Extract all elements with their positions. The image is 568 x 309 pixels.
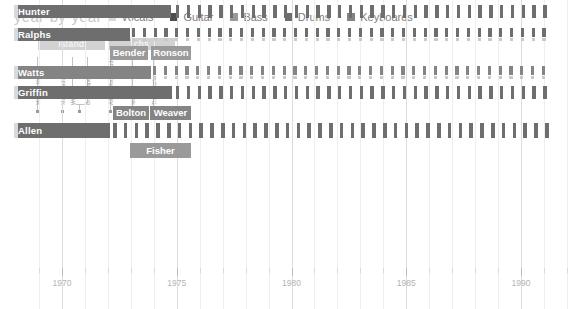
bar-dash xyxy=(424,28,427,37)
bar-dash xyxy=(250,76,253,79)
bar-dash xyxy=(293,66,296,75)
bar-dash xyxy=(218,66,221,75)
bar-dash xyxy=(488,28,491,37)
chart-row-ralphs[interactable] xyxy=(0,28,568,41)
bar-dash xyxy=(392,5,395,18)
bar-dash xyxy=(286,123,290,138)
bar-dash xyxy=(349,86,352,99)
bar-dash xyxy=(229,76,232,79)
bar-dash xyxy=(520,76,523,79)
bar-dash xyxy=(153,76,156,79)
bar-dash xyxy=(305,28,308,37)
bar-dash xyxy=(542,76,545,79)
bar-dash xyxy=(329,123,333,138)
bar-dash xyxy=(316,28,319,37)
bar-dash xyxy=(434,38,437,41)
bar-dash xyxy=(403,86,406,99)
bar-dash xyxy=(402,38,405,41)
bar-dash xyxy=(185,76,188,79)
bar-dash xyxy=(175,28,178,37)
bar-dash xyxy=(218,76,221,79)
bar-dash xyxy=(380,76,383,79)
bar-dash xyxy=(402,28,405,37)
axis-tick xyxy=(108,268,109,273)
row-label: Bender xyxy=(110,47,148,58)
bar-dash xyxy=(230,5,233,18)
bar-dash xyxy=(499,76,502,79)
bar-dash xyxy=(468,86,471,99)
bar-dash xyxy=(178,123,182,138)
row-label: Weaver xyxy=(150,107,191,118)
bar-dash xyxy=(338,86,341,99)
bar-dash xyxy=(252,5,255,18)
bar-dash xyxy=(545,123,549,138)
bar-dash xyxy=(543,5,546,18)
bar-dash xyxy=(284,5,287,18)
bar-dash xyxy=(240,38,243,41)
bar-dash xyxy=(143,38,146,41)
chart-row-allen[interactable] xyxy=(0,123,568,138)
chart-row-fisher[interactable] xyxy=(0,143,568,158)
bar-dash xyxy=(359,28,362,37)
bar-dash xyxy=(221,123,225,138)
chart-row-ronson[interactable] xyxy=(0,46,568,60)
bar-dash xyxy=(532,5,535,18)
bar-dash xyxy=(348,28,351,37)
bar-dash xyxy=(338,5,341,18)
bar-dash xyxy=(208,28,211,37)
bar-dash xyxy=(272,66,275,75)
bar-dash xyxy=(294,28,297,37)
bar-dash xyxy=(284,86,287,99)
bar-dash xyxy=(415,123,419,138)
bar-dash xyxy=(229,38,232,41)
bar-dash xyxy=(176,86,179,99)
axis-tick xyxy=(269,268,270,273)
bar-dash xyxy=(394,123,398,138)
axis-tick xyxy=(177,268,178,276)
bar-dash xyxy=(340,123,344,138)
bar-dash xyxy=(531,76,534,79)
chart-row-griffin[interactable] xyxy=(0,86,568,99)
chart-row-hunter[interactable] xyxy=(0,5,568,18)
bar-dash xyxy=(543,86,546,99)
chart-row-weaver[interactable] xyxy=(0,106,568,120)
bar-dash xyxy=(478,86,481,99)
bar-dash xyxy=(488,66,491,75)
chart-row-watts[interactable] xyxy=(0,66,568,79)
bar-dash xyxy=(145,123,149,138)
bar-dash xyxy=(241,5,244,18)
bar-dash xyxy=(143,28,146,37)
bar-dash xyxy=(381,5,384,18)
bar-dash xyxy=(167,123,171,138)
bar-dash xyxy=(326,28,329,37)
bar-dash xyxy=(370,38,373,41)
bar-dash xyxy=(499,28,502,37)
bar-dash xyxy=(467,28,470,37)
bar-dash xyxy=(434,76,437,79)
bar-dash xyxy=(370,5,373,18)
bar-dash xyxy=(252,86,255,99)
bar-dash xyxy=(262,38,265,41)
bar-dash xyxy=(304,76,307,79)
bar-dash xyxy=(153,66,156,75)
bar-dash xyxy=(297,123,301,138)
bar-dash xyxy=(186,28,189,37)
bar-dash xyxy=(261,76,264,79)
bar-dash xyxy=(349,5,352,18)
bar-dash xyxy=(489,5,492,18)
bar-dash xyxy=(456,38,459,41)
bar-dash xyxy=(478,38,481,41)
bar-dash xyxy=(210,123,214,138)
bar-dash xyxy=(435,5,438,18)
bar-dash xyxy=(434,28,437,37)
bar-dash xyxy=(522,86,525,99)
axis-tick xyxy=(498,268,499,273)
axis-tick xyxy=(314,268,315,273)
bar-dash xyxy=(413,38,416,41)
bar-dash xyxy=(392,86,395,99)
bar-dash xyxy=(272,38,275,41)
bar-dash xyxy=(197,38,200,41)
bar-dash xyxy=(239,76,242,79)
bar-dash xyxy=(513,123,517,138)
bar-dash xyxy=(499,38,502,41)
